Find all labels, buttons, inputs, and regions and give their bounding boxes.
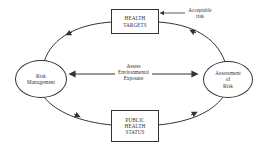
center-label: Assess Environmental Exposure: [112, 63, 155, 82]
public-health-status-box: PUBLIC HEALTH STATUS: [111, 110, 159, 142]
acceptable-risk-annotation: Acceptable risk: [183, 7, 217, 19]
edge-assessment-to-targets: [158, 22, 225, 62]
health-targets-box: HEALTH TARGETS: [111, 9, 159, 34]
edge-status-to-assessment: [158, 97, 223, 125]
risk-management-ellipse: Risk Management: [15, 60, 67, 98]
center-label-line-3: Exposure: [112, 75, 155, 81]
health-targets-line-2: TARGETS: [123, 22, 147, 28]
acceptable-risk-line-2: risk: [183, 13, 217, 19]
public-health-status-line-3: STATUS: [125, 129, 144, 135]
edge-management-to-status: [44, 97, 112, 125]
assessment-of-risk-ellipse: Assessment of Risk: [203, 61, 253, 98]
risk-management-line-2: Management: [27, 79, 55, 85]
edge-targets-to-management: [44, 22, 112, 62]
assessment-of-risk-line-3: Risk: [223, 83, 233, 89]
